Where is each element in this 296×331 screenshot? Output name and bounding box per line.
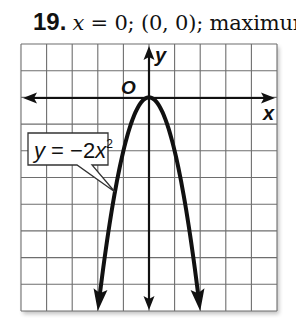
equation-label: y = −2x2 [32, 137, 113, 163]
parabola-graph: y x O y = −2x2 [0, 0, 296, 331]
x-axis-label: x [262, 102, 275, 124]
y-axis-label: y [154, 44, 167, 66]
origin-label: O [121, 77, 136, 98]
